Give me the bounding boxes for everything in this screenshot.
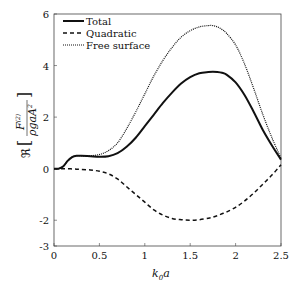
y-axis-label: ℜ [ F(2) ρgaA2 ] bbox=[14, 92, 39, 158]
y-label-denominator: ρgaA2 bbox=[26, 104, 39, 137]
series-lines bbox=[54, 25, 281, 220]
legend-quadratic-label: Quadratic bbox=[86, 28, 137, 39]
plot-area: 00.511.522.5-3-20246 bbox=[39, 9, 289, 261]
y-label-bracket-right: ] bbox=[15, 92, 34, 98]
chart: 00.511.522.5-3-20246 Total Quadratic Fre… bbox=[0, 0, 296, 286]
y-label-re: ℜ bbox=[19, 148, 33, 158]
legend-free-surface-label: Free surface bbox=[86, 40, 150, 51]
x-tick-label: 0 bbox=[51, 250, 57, 261]
x-tick-label: 2 bbox=[232, 250, 238, 261]
x-tick-label: 1.5 bbox=[182, 250, 198, 261]
x-axis-label: k0a bbox=[152, 267, 170, 282]
legend-total-label: Total bbox=[86, 16, 111, 27]
y-tick-label: 6 bbox=[43, 9, 49, 20]
x-label-k: k0a bbox=[152, 267, 170, 282]
x-tick-label: 1 bbox=[142, 250, 148, 261]
y-label-bracket-left: [ bbox=[15, 140, 34, 146]
x-tick-label: 0.5 bbox=[91, 250, 107, 261]
y-tick-label: -2 bbox=[39, 215, 49, 226]
y-tick-label: -3 bbox=[39, 241, 49, 252]
legend: Total Quadratic Free surface bbox=[63, 16, 150, 51]
series-total-line bbox=[54, 72, 281, 169]
y-tick-label: 4 bbox=[43, 61, 49, 72]
y-tick-label: 2 bbox=[43, 112, 49, 123]
series-quadratic-line bbox=[54, 165, 281, 220]
y-tick-label: 0 bbox=[43, 164, 49, 175]
x-tick-label: 2.5 bbox=[273, 250, 289, 261]
ticks: 00.511.522.5-3-20246 bbox=[39, 9, 289, 261]
